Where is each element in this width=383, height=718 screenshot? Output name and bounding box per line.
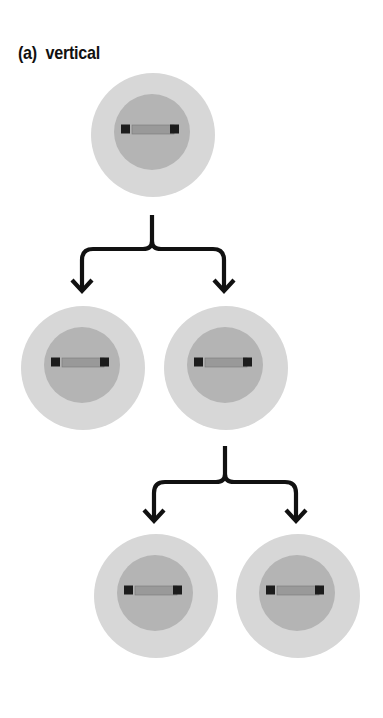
centromere-left-marker [124, 586, 133, 595]
cell-division-diagram [0, 0, 383, 718]
brace-arrow-path [82, 215, 224, 289]
division-arrow-daughter-right [144, 446, 306, 521]
chromosome-bar [205, 358, 247, 367]
cell-granddaughter-right [236, 534, 360, 658]
centromere-right-marker [173, 586, 182, 595]
centromere-right-marker [243, 358, 252, 367]
centromere-left-marker [51, 358, 60, 367]
centromere-right-marker [170, 125, 179, 134]
cell-parent [91, 73, 215, 197]
centromere-left-marker [194, 358, 203, 367]
division-arrow-parent [72, 215, 234, 291]
chromosome-bar [277, 586, 319, 595]
chromosome-bar [132, 125, 174, 134]
centromere-right-marker [100, 358, 109, 367]
cell-daughter-left [21, 306, 145, 430]
cell-granddaughter-left [94, 534, 218, 658]
cells-layer [21, 73, 360, 658]
chromosome-bar [135, 586, 177, 595]
chromosome-bar [62, 358, 104, 367]
centromere-right-marker [315, 586, 324, 595]
centromere-left-marker [266, 586, 275, 595]
centromere-left-marker [121, 125, 130, 134]
brace-arrow-path [154, 446, 296, 519]
cell-daughter-right [164, 306, 288, 430]
